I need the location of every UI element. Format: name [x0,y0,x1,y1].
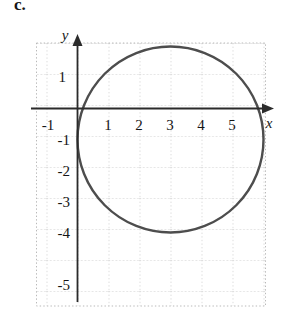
x-tick-label-2: 2 [135,117,143,133]
x-tick-label-3: 3 [166,117,174,133]
y-tick-label-neg4: -4 [58,225,71,241]
y-tick-label-neg1: -1 [58,132,71,148]
x-tick-label-4: 4 [197,117,205,133]
grid-layer [37,43,266,306]
figure-container: c. x y -1 1 [0,0,286,311]
y-tick-label-1: 1 [59,69,67,85]
y-tick-label-neg3: -3 [58,194,71,210]
x-tick-label-neg1: -1 [42,117,55,133]
x-tick-label-1: 1 [104,117,112,133]
x-axis-label: x [265,115,273,131]
y-axis-label: y [60,27,69,43]
x-tick-label-5: 5 [228,117,236,133]
coordinate-plane-plot: x y -1 1 2 3 4 5 1 -1 -2 -3 -4 -5 [0,0,286,311]
y-tick-label-neg5: -5 [58,277,71,293]
y-tick-label-neg2: -2 [58,163,71,179]
